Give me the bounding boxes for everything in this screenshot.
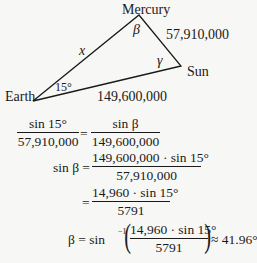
eq2-fraction: 149,600,000 · sin 15° 57,910,000 [92, 150, 201, 183]
side-label-x: x [79, 44, 85, 58]
vertex-label-earth: Earth [5, 90, 35, 104]
eq1-left-fraction: sin 15° 57,910,000 [17, 116, 79, 149]
vertex-label-mercury: Mercury [122, 3, 170, 17]
eq4-fraction: 14,960 · sin 15° 5791 [130, 222, 208, 255]
eq4-result: ≈ 41.96° [211, 233, 257, 247]
eq4-lhs: β = sin [68, 233, 105, 247]
eq1-left-denominator: 57,910,000 [17, 134, 79, 149]
eq2-numerator: 149,600,000 · sin 15° [92, 150, 201, 165]
angle-label-beta: β [133, 23, 140, 37]
eq3-equals: = [82, 196, 90, 210]
fraction-bar [130, 238, 208, 239]
side-label-mercury-sun: 57,910,000 [166, 28, 229, 42]
eq2-denominator: 57,910,000 [92, 168, 201, 183]
angle-label-gamma: γ [157, 54, 163, 68]
eq1-right-fraction: sin β 149,600,000 [91, 116, 160, 149]
eq1-right-numerator: sin β [91, 116, 160, 131]
vertex-label-sun: Sun [187, 65, 209, 79]
eq3-fraction: 14,960 · sin 15° 5791 [92, 185, 170, 218]
eq4-numerator: 14,960 · sin 15° [130, 222, 208, 237]
eq3-denominator: 5791 [92, 203, 170, 218]
eq1-left-numerator: sin 15° [17, 116, 79, 131]
eq1-right-denominator: 149,600,000 [91, 134, 160, 149]
fraction-bar [92, 201, 170, 202]
fraction-bar [92, 166, 201, 167]
eq1-equals: = [80, 127, 88, 141]
fraction-bar [91, 132, 160, 133]
eq3-numerator: 14,960 · sin 15° [92, 185, 170, 200]
angle-label-earth: 15° [55, 81, 72, 93]
eq4-denominator: 5791 [130, 240, 208, 255]
eq2-lhs: sin β = [53, 161, 90, 175]
fraction-bar [17, 132, 79, 133]
side-label-earth-sun: 149,600,000 [97, 90, 167, 104]
